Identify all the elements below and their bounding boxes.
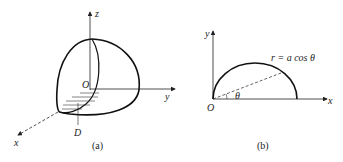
z-axis-label: z (94, 8, 99, 19)
figure-a: z y x O D (a) (13, 8, 175, 152)
origin-label: O (82, 79, 89, 90)
theta-label: θ (235, 90, 240, 101)
x-axis (18, 112, 58, 135)
polar-curve (213, 63, 297, 99)
region-d-label: D (73, 127, 82, 138)
b-x-axis-label: x (327, 95, 333, 106)
curve-equation-label: r = a cos θ (271, 52, 315, 63)
y-axis-label: y (164, 91, 170, 102)
solid-right-curve (60, 39, 139, 115)
x-axis-label: x (13, 137, 19, 148)
theta-arc (226, 94, 227, 99)
b-y-axis-label: y (204, 28, 210, 39)
figure-a-caption: (a) (92, 140, 103, 152)
figure-b: y x O θ r = a cos θ (b) (204, 28, 333, 152)
figure-canvas: z y x O D (a) y x O θ r = a cos θ (b) (0, 0, 343, 162)
figure-b-caption: (b) (257, 140, 269, 152)
b-origin-label: O (207, 102, 214, 113)
radius-line (213, 73, 281, 99)
solid-inner-curve (60, 39, 99, 113)
